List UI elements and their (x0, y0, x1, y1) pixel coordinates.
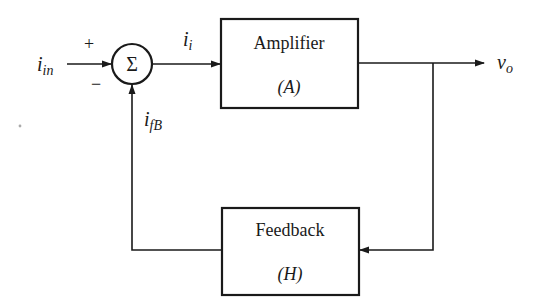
output-signal-label: vo (497, 51, 513, 76)
amplifier-label: Amplifier (254, 33, 325, 53)
feedback-label: Feedback (256, 220, 325, 240)
amplifier-symbol: (A) (278, 77, 301, 98)
sigma-symbol: Σ (126, 53, 138, 75)
feedback-symbol: (H) (278, 264, 303, 285)
error-signal-label: ii (183, 28, 193, 53)
feedback-block: Feedback (H) (222, 208, 359, 295)
feedback-signal-label: ifB (144, 108, 162, 133)
amplifier-block: Amplifier (A) (221, 19, 358, 108)
feedback-block-diagram: iin + − Σ ii Amplifier (A) vo (0, 0, 540, 307)
feedback-return-path (360, 63, 433, 250)
scan-artifact-dot (19, 125, 22, 128)
plus-sign: + (84, 34, 94, 54)
minus-sign: − (91, 74, 101, 94)
input-signal-label: iin (37, 53, 53, 78)
summing-junction: Σ (112, 44, 152, 84)
diagram-svg: iin + − Σ ii Amplifier (A) vo (0, 0, 540, 307)
